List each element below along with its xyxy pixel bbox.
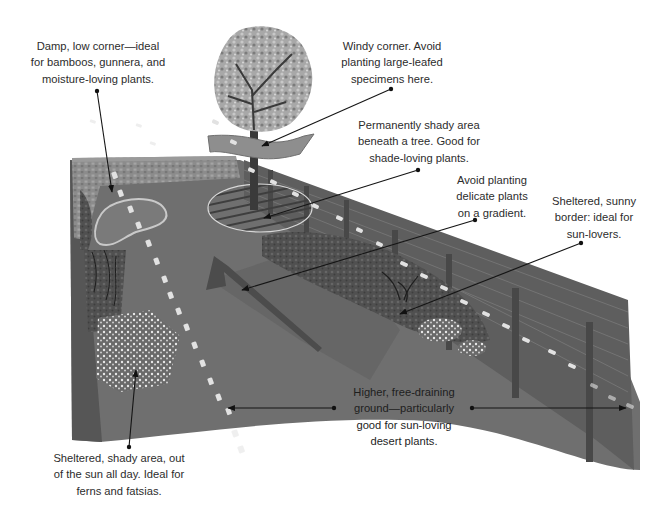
- annotation-windy-corner: Windy corner. Avoid planting large-leafe…: [322, 38, 462, 87]
- annotation-damp-corner: Damp, low corner—ideal for bamboos, gunn…: [12, 38, 184, 87]
- annotation-shady-area: Sheltered, shady area, out of the sun al…: [30, 450, 208, 499]
- wind-arrow: [208, 134, 314, 159]
- annotation-shady-tree: Permanently shady area beneath a tree. G…: [348, 117, 490, 166]
- annotation-free-draining: Higher, free-draining ground—particularl…: [336, 384, 472, 450]
- garden-diagram: Damp, low corner—ideal for bamboos, gunn…: [0, 0, 671, 506]
- annotation-sunny-border: Sheltered, sunny border: ideal for sun-l…: [532, 193, 656, 242]
